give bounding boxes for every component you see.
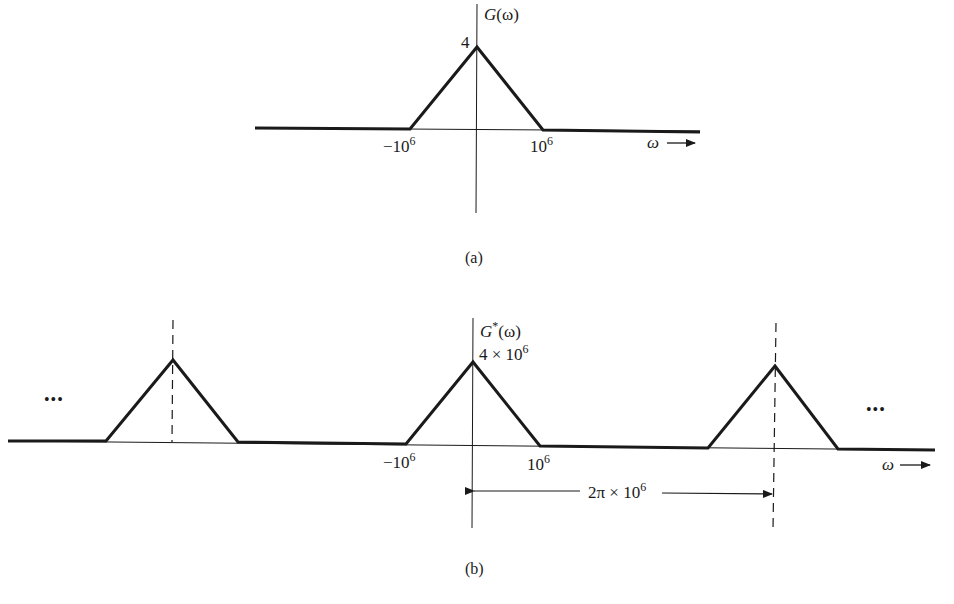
spectrum-curve-b bbox=[8, 360, 935, 450]
ellipsis-left: ••• bbox=[44, 391, 64, 408]
x-axis-b bbox=[8, 441, 935, 450]
ellipsis-right: ••• bbox=[866, 401, 886, 418]
replica-center-right bbox=[773, 323, 776, 530]
y-axis-a bbox=[476, 4, 477, 213]
spectrum-figure: G(ω) 4 −106 106 ω (a) ••• ••• G*(ω) 4 × bbox=[0, 0, 954, 604]
panel-b: ••• ••• G*(ω) 4 × 106 −106 106 2π × 106 … bbox=[8, 318, 935, 578]
period-label: 2π × 106 bbox=[588, 480, 646, 502]
tick-label-neg-a: −106 bbox=[383, 134, 416, 156]
tick-label-pos-a: 106 bbox=[530, 134, 553, 156]
caption-a: (a) bbox=[465, 249, 483, 267]
panel-a: G(ω) 4 −106 106 ω (a) bbox=[255, 4, 700, 267]
y-axis-label-a: G(ω) bbox=[484, 5, 519, 24]
period-arrow-right-icon bbox=[662, 493, 772, 494]
replica-center-left bbox=[172, 320, 173, 442]
y-axis-label-b: G*(ω) bbox=[480, 319, 521, 341]
caption-b: (b) bbox=[465, 560, 484, 578]
spectrum-curve-a bbox=[255, 47, 700, 132]
tick-label-neg-b: −106 bbox=[383, 450, 416, 472]
omega-label-b: ω bbox=[882, 455, 894, 474]
peak-label-a: 4 bbox=[461, 33, 470, 52]
y-axis-b bbox=[472, 318, 473, 528]
omega-label-a: ω bbox=[647, 133, 659, 152]
peak-label-b: 4 × 106 bbox=[479, 342, 529, 364]
tick-label-pos-b: 106 bbox=[527, 452, 550, 474]
